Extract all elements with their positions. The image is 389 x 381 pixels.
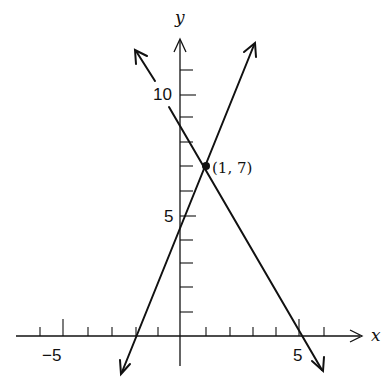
y-axis-ticks <box>180 70 196 312</box>
rising-line <box>120 43 256 374</box>
intersection-point <box>202 162 210 170</box>
x-axis-label: x <box>371 325 381 345</box>
x-tick-label-5: 5 <box>293 346 302 365</box>
x-axis-ticks <box>40 319 324 336</box>
chart: (1, 7) x y −5 5 5 10 <box>0 0 389 381</box>
y-axis <box>174 39 186 366</box>
y-axis-label: y <box>174 7 185 27</box>
x-tick-label-neg5: −5 <box>42 346 61 365</box>
y-tick-label-10: 10 <box>153 85 172 104</box>
y-tick-label-5: 5 <box>164 207 173 226</box>
x-axis <box>16 330 362 342</box>
point-label: (1, 7) <box>212 159 252 177</box>
